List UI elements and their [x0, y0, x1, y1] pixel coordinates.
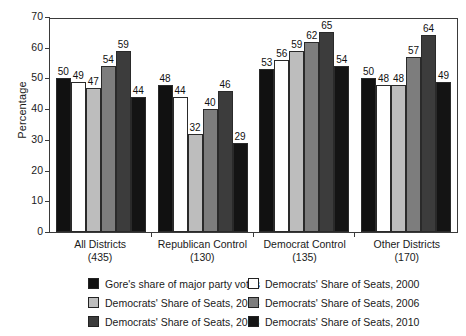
bar[interactable]: 50	[56, 78, 71, 232]
bar-value-label: 49	[73, 70, 84, 81]
legend-label: Gore's share of major party votes	[105, 278, 260, 290]
legend-swatch	[248, 297, 259, 308]
bar-value-label: 54	[336, 54, 347, 65]
bar-value-label: 46	[220, 79, 231, 90]
bar-value-label: 50	[58, 66, 69, 77]
legend-item[interactable]: Democrats' Share of Seats, 2008	[88, 316, 248, 328]
x-axis-labels: All Districts(435)Republican Control(130…	[49, 238, 458, 263]
legend-label: Democrats' Share of Seats, 2000	[265, 278, 419, 290]
legend-swatch	[88, 316, 99, 327]
bar[interactable]: 29	[233, 143, 248, 232]
bar-value-label: 29	[235, 131, 246, 142]
bar-value-label: 59	[118, 39, 129, 50]
y-tick-label: 70	[17, 10, 43, 22]
legend-swatch	[88, 278, 99, 289]
bar-value-label: 50	[363, 66, 374, 77]
x-category-label: All Districts(435)	[49, 238, 151, 263]
bar[interactable]: 53	[259, 69, 274, 232]
chart-legend: Gore's share of major party votesDemocra…	[88, 274, 448, 331]
legend-label: Democrats' Share of Seats, 2006	[265, 297, 419, 309]
plot-area: 010203040506070 504947545944484432404629…	[49, 18, 458, 233]
bar-group: 535659626554	[254, 19, 356, 232]
bar[interactable]: 54	[334, 66, 349, 232]
bar[interactable]: 48	[376, 85, 391, 232]
x-category-label: Other Districts(170)	[356, 238, 458, 263]
x-category-name: Democrat Control	[254, 238, 356, 251]
x-category-label: Republican Control(130)	[151, 238, 253, 263]
bar[interactable]: 62	[304, 42, 319, 232]
legend-item[interactable]: Gore's share of major party votes	[88, 278, 248, 290]
bar[interactable]: 40	[203, 109, 218, 232]
x-category-count: (435)	[49, 251, 151, 264]
bar[interactable]: 32	[188, 134, 203, 232]
bar[interactable]: 49	[71, 82, 86, 233]
bar[interactable]: 49	[436, 82, 451, 233]
y-tick-label: 50	[17, 71, 43, 83]
bar-value-label: 56	[276, 48, 287, 59]
bar[interactable]: 64	[421, 35, 436, 232]
bar-value-label: 59	[291, 39, 302, 50]
y-tick-label: 30	[17, 133, 43, 145]
bar[interactable]: 50	[361, 78, 376, 232]
bar-value-label: 62	[306, 30, 317, 41]
bar[interactable]: 44	[173, 97, 188, 232]
bar[interactable]: 56	[274, 60, 289, 232]
bar-value-label: 44	[175, 85, 186, 96]
bar[interactable]: 46	[218, 91, 233, 232]
y-tick-mark	[45, 17, 50, 18]
bar-value-label: 40	[205, 97, 216, 108]
bar-set: 504947545944	[56, 19, 146, 232]
x-category-count: (130)	[151, 251, 253, 264]
bar[interactable]: 59	[116, 51, 131, 232]
bar[interactable]: 48	[158, 85, 173, 232]
bar-group: 504848576449	[355, 19, 457, 232]
legend-swatch	[248, 278, 259, 289]
bar-set: 484432404629	[158, 19, 248, 232]
legend-swatch	[248, 316, 259, 327]
y-tick-label: 40	[17, 102, 43, 114]
bar-set: 535659626554	[259, 19, 349, 232]
bar-value-label: 54	[103, 54, 114, 65]
legend-item[interactable]: Democrats' Share of Seats, 2004	[88, 297, 248, 309]
bar-value-label: 47	[88, 76, 99, 87]
bar-value-label: 49	[438, 70, 449, 81]
y-tick-label: 10	[17, 194, 43, 206]
bar-set: 504848576449	[361, 19, 451, 232]
x-category-label: Democrat Control(135)	[254, 238, 356, 263]
y-tick-mark	[45, 232, 50, 233]
legend-label: Democrats' Share of Seats, 2008	[105, 316, 259, 328]
bar-group: 504947545944	[50, 19, 152, 232]
bar[interactable]: 65	[319, 32, 334, 232]
bar[interactable]: 47	[86, 88, 101, 232]
chart-container: Percentage 010203040506070 5049475459444…	[0, 0, 466, 336]
legend-item[interactable]: Democrats' Share of Seats, 2000	[248, 278, 448, 290]
bar-value-label: 48	[378, 73, 389, 84]
x-category-name: Other Districts	[356, 238, 458, 251]
bar-value-label: 53	[261, 57, 272, 68]
bar-group: 484432404629	[152, 19, 254, 232]
legend-swatch	[88, 297, 99, 308]
bar-value-label: 48	[160, 73, 171, 84]
bar[interactable]: 48	[391, 85, 406, 232]
bar-value-label: 65	[321, 20, 332, 31]
bar[interactable]: 44	[131, 97, 146, 232]
x-tick-mark	[253, 232, 254, 237]
x-category-name: Republican Control	[151, 238, 253, 251]
bar-value-label: 44	[133, 85, 144, 96]
bar[interactable]: 54	[101, 66, 116, 232]
bar[interactable]: 57	[406, 57, 421, 232]
y-tick-label: 20	[17, 164, 43, 176]
legend-label: Democrats' Share of Seats, 2010	[265, 316, 419, 328]
bar-value-label: 64	[423, 23, 434, 34]
x-category-count: (170)	[356, 251, 458, 264]
y-tick-label: 0	[17, 225, 43, 237]
x-tick-mark	[354, 232, 355, 237]
bar[interactable]: 59	[289, 51, 304, 232]
x-tick-mark	[151, 232, 152, 237]
y-tick-label: 60	[17, 41, 43, 53]
bar-value-label: 32	[190, 122, 201, 133]
legend-item[interactable]: Democrats' Share of Seats, 2010	[248, 316, 448, 328]
legend-item[interactable]: Democrats' Share of Seats, 2006	[248, 297, 448, 309]
x-category-name: All Districts	[49, 238, 151, 251]
bar-groups: 5049475459444844324046295356596265545048…	[50, 19, 457, 232]
